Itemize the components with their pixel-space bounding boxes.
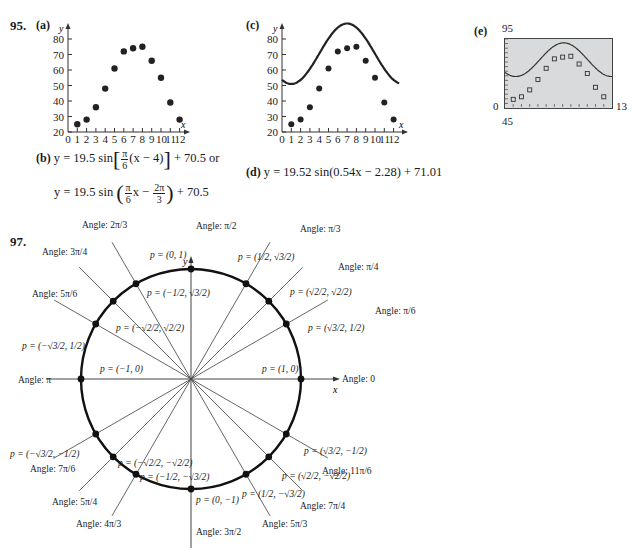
point-label: p = (0, −1) [195, 495, 239, 506]
point-label: p = (0, 1) [149, 250, 187, 261]
point-label: p = (−√3/2, −1/2) [9, 449, 79, 460]
point-label: p = (−√3/2, 1/2) [21, 341, 85, 352]
unit-circle-diagram: y x Angle: 0p = (1, 0)Angle: π/6p = (√3/… [0, 0, 634, 549]
point-label: p = (1/2, −√3/2) [241, 489, 305, 500]
angle-label: Angle: 5π/6 [32, 289, 77, 299]
point-label: p = (1/2, √3/2) [237, 252, 294, 263]
point-label: p = (−√2/2, √2/2) [115, 323, 184, 334]
angle-label: Angle: 2π/3 [82, 220, 127, 230]
point-label: p = (−1/2, √3/2) [146, 288, 210, 299]
angle-label: Angle: π [18, 375, 51, 385]
angle-label: Angle: 3π/2 [196, 527, 241, 537]
angle-label: Angle: π/6 [375, 306, 416, 316]
point-label: p = (−1, 0) [99, 364, 143, 375]
angle-label: Angle: 11π/6 [322, 466, 372, 476]
y-axis-arrow-icon [189, 256, 194, 263]
angle-label: Angle: π/2 [196, 221, 237, 231]
point-label: p = (1, 0) [261, 364, 299, 375]
x-axis-label: x [332, 384, 338, 395]
angle-label: Angle: 0 [342, 374, 375, 384]
angle-label: Angle: 5π/4 [52, 497, 97, 507]
angle-label: Angle: 5π/3 [262, 519, 307, 529]
point-label: p = (√3/2, −1/2) [303, 446, 367, 457]
point-label: p = (−1/2, −√3/2) [139, 472, 209, 483]
angle-label: Angle: 4π/3 [76, 519, 121, 529]
angle-label: Angle: 7π/6 [30, 464, 75, 474]
angle-label: Angle: 7π/4 [300, 501, 345, 511]
point-label: p = (√2/2, √2/2) [289, 287, 352, 298]
point-label: p = (−√2/2, −√2/2) [117, 458, 193, 469]
x-axis-arrow-icon [333, 377, 340, 382]
angle-label: Angle: π/4 [338, 262, 379, 272]
angle-label: Angle: 3π/4 [42, 247, 87, 257]
point-label: p = (√3/2, 1/2) [307, 323, 364, 334]
angle-label: Angle: π/3 [300, 224, 341, 234]
